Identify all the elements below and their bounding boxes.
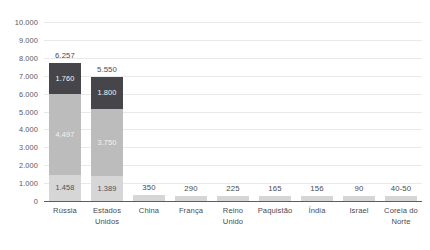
x-axis-category-label: Paquistão [254,206,296,217]
y-axis-tick-label: 1.000 [0,179,38,188]
bar-segment-bottom-segment[interactable] [343,196,375,201]
x-axis-category-label: Rússia [44,206,86,217]
bar-total-label: 156 [301,185,333,193]
x-axis-category-label: Israel [338,206,380,217]
y-axis-tick-label: 6.000 [0,89,38,98]
bar-segment-bottom-segment[interactable]: 1.389 [91,176,123,201]
bar-segment-value-label: 1.800 [98,89,117,96]
bar-group[interactable]: 225 [217,196,249,201]
bar-segment-value-label: 1.389 [98,185,117,192]
bar-segment-value-label: 3.750 [98,139,117,146]
x-axis-category-label: Reino Unido [212,206,254,227]
bar-total-label: 5.550 [91,66,123,74]
bar-segment-value-label: 1.760 [56,75,75,82]
bar-group[interactable]: 40-50 [385,196,417,201]
bar-total-label: 40-50 [385,185,417,193]
x-axis-category-label: Estados Unidos [86,206,128,227]
bar-segment-bottom-segment[interactable] [259,196,291,201]
x-axis-category-label: França [170,206,212,217]
bar-total-label: 225 [217,185,249,193]
y-axis-tick-label: 3.000 [0,143,38,152]
x-axis-category-label: Índia [296,206,338,217]
bar-segment-bottom-segment[interactable] [301,196,333,201]
bar-group[interactable]: 156 [301,196,333,201]
x-axis-category-label: China [128,206,170,217]
bar-segment-bottom-segment[interactable] [385,196,417,201]
y-axis-tick-label: 7.000 [0,71,38,80]
bar-group[interactable]: 350 [133,195,165,201]
y-axis-tick-label: 8.000 [0,53,38,62]
bar-group[interactable]: 1.3893.7501.8005.550 [91,77,123,201]
bar-segment-bottom-segment[interactable] [217,196,249,201]
bar-segment-top-segment[interactable]: 1.760 [49,63,81,95]
y-axis-tick-label: 0 [0,197,38,206]
y-axis-tick-label: 2.000 [0,161,38,170]
bar-segment-bottom-segment[interactable] [133,195,165,201]
bar-total-label: 350 [133,184,165,192]
bar-segment-middle-segment[interactable]: 3.750 [91,109,123,176]
bar-segment-value-label: 1.458 [56,184,75,191]
bar-group[interactable]: 290 [175,196,207,201]
bar-total-label: 6.257 [49,52,81,60]
y-axis-tick-label: 10.000 [0,18,38,27]
bar-group[interactable]: 1.4584.4971.7606.257 [49,63,81,201]
bar-total-label: 90 [343,185,375,193]
x-axis-labels: RússiaEstados UnidosChinaFrançaReino Uni… [44,206,422,246]
stacked-bar-chart: 01.0002.0003.0004.0005.0006.0007.0008.00… [0,0,430,250]
bar-segment-value-label: 4.497 [56,131,75,138]
bar-segment-middle-segment[interactable]: 4.497 [49,94,81,174]
bar-segment-bottom-segment[interactable] [175,196,207,201]
y-axis-tick-label: 5.000 [0,107,38,116]
x-axis-category-label: Coreia do Norte [380,206,422,227]
y-axis-tick-label: 9.000 [0,35,38,44]
y-axis-tick-label: 4.000 [0,125,38,134]
bar-segment-top-segment[interactable]: 1.800 [91,77,123,109]
bar-segment-bottom-segment[interactable]: 1.458 [49,175,81,201]
bar-group[interactable]: 165 [259,196,291,201]
y-axis: 01.0002.0003.0004.0005.0006.0007.0008.00… [0,0,38,250]
bar-total-label: 290 [175,185,207,193]
bar-total-label: 165 [259,185,291,193]
bar-group[interactable]: 90 [343,196,375,201]
